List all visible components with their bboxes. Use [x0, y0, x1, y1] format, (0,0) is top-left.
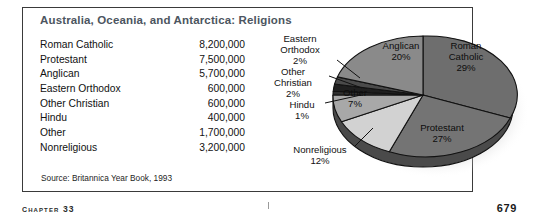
table-row: Other 1,700,000: [40, 127, 245, 142]
pie-label-line: Christian: [255, 77, 331, 88]
table-row: Hindu 400,000: [40, 112, 245, 127]
pie-label-percent: 20%: [370, 51, 432, 62]
figure-title: Australia, Oceania, and Antarctica: Reli…: [40, 14, 292, 26]
pie-label-other-christian: Other Christian 2%: [255, 66, 331, 100]
footer-tick-mark: [268, 202, 269, 209]
row-value: 600,000: [171, 98, 245, 113]
pie-label-line: Nonreligious: [279, 144, 361, 155]
pie-label-line: Other: [333, 87, 377, 98]
pie-label-anglican: Anglican 20%: [370, 40, 432, 62]
pie-label-percent: 1%: [273, 110, 331, 121]
table-row: Eastern Orthodox 600,000: [40, 83, 245, 98]
row-value: 1,700,000: [171, 127, 245, 142]
pie-label-line: Anglican: [370, 40, 432, 51]
footer-page-number: 679: [497, 202, 517, 214]
pie-label-line: Eastern: [261, 33, 339, 44]
row-label: Nonreligious: [40, 142, 171, 157]
row-label: Other: [40, 127, 171, 142]
pie-label-hindu: Hindu 1%: [273, 99, 331, 121]
pie-label-percent: 2%: [261, 55, 339, 66]
pie-label-nonreligious: Nonreligious 12%: [279, 144, 361, 166]
row-value: 8,200,000: [171, 39, 245, 54]
pie-label-percent: 29%: [435, 62, 497, 73]
row-label: Protestant: [40, 54, 171, 69]
footer-chapter-label: Chapter 33: [22, 203, 75, 214]
row-label: Anglican: [40, 68, 171, 83]
row-value: 3,200,000: [171, 142, 245, 157]
pie-label-line: Catholic: [435, 51, 497, 62]
pie-chart: Eastern Orthodox 2% Other Christian 2% H…: [255, 18, 538, 193]
pie-label-other: Other 7%: [333, 87, 377, 109]
table-body: Roman Catholic 8,200,000 Protestant 7,50…: [40, 39, 245, 157]
pie-label-percent: 7%: [333, 98, 377, 109]
source-note: Source: Britannica Year Book, 1993: [41, 173, 172, 183]
pie-label-line: Other: [255, 66, 331, 77]
row-label: Roman Catholic: [40, 39, 171, 54]
pie-label-protestant: Protestant 27%: [405, 122, 479, 144]
pie-label-line: Orthodox: [261, 44, 339, 55]
row-value: 5,700,000: [171, 68, 245, 83]
row-label: Hindu: [40, 112, 171, 127]
pie-label-eastern-orthodox: Eastern Orthodox 2%: [261, 33, 339, 67]
table-row: Roman Catholic 8,200,000: [40, 39, 245, 54]
table-row: Protestant 7,500,000: [40, 54, 245, 69]
pie-label-percent: 27%: [405, 133, 479, 144]
row-value: 7,500,000: [171, 54, 245, 69]
table-row: Anglican 5,700,000: [40, 68, 245, 83]
row-label: Other Christian: [40, 98, 171, 113]
table-row: Other Christian 600,000: [40, 98, 245, 113]
pie-label-line: Protestant: [405, 122, 479, 133]
row-label: Eastern Orthodox: [40, 83, 171, 98]
religions-table: Roman Catholic 8,200,000 Protestant 7,50…: [40, 39, 245, 157]
pie-label-roman-catholic: Roman Catholic 29%: [435, 40, 497, 74]
pie-label-percent: 12%: [279, 155, 361, 166]
row-value: 600,000: [171, 83, 245, 98]
row-value: 400,000: [171, 112, 245, 127]
table-row: Nonreligious 3,200,000: [40, 142, 245, 157]
pie-label-line: Roman: [435, 40, 497, 51]
pie-label-line: Hindu: [273, 99, 331, 110]
pie-label-percent: 2%: [255, 88, 331, 99]
